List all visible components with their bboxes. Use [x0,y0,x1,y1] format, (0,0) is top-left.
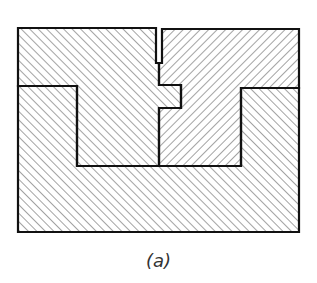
joint-cross-section-diagram [0,0,317,283]
figure-caption: (a) [0,250,317,271]
